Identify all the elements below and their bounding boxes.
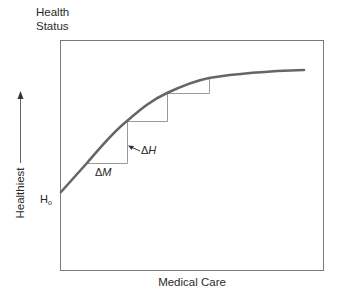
baseline-label-main: H: [40, 193, 48, 205]
y-axis-title-line1: Health: [36, 5, 69, 19]
up-arrow-icon: [18, 91, 24, 163]
baseline-label-sub: o: [48, 199, 52, 206]
x-axis-title: Medical Care: [60, 276, 324, 288]
plot-frame: [61, 41, 324, 271]
delta-h-var: H: [148, 144, 156, 156]
baseline-health-label: Ho: [40, 193, 52, 206]
delta-h-label: ΔH: [141, 144, 156, 156]
delta-h-pointer-icon: [128, 146, 140, 152]
y-axis-title-line2: Status: [36, 19, 69, 33]
delta-m-var: M: [102, 166, 111, 178]
y-axis-title: Health Status: [36, 5, 69, 33]
diagram-graphics: [0, 0, 339, 295]
delta-m-label: ΔM: [95, 166, 112, 178]
direction-label: Healthiest: [14, 167, 26, 218]
